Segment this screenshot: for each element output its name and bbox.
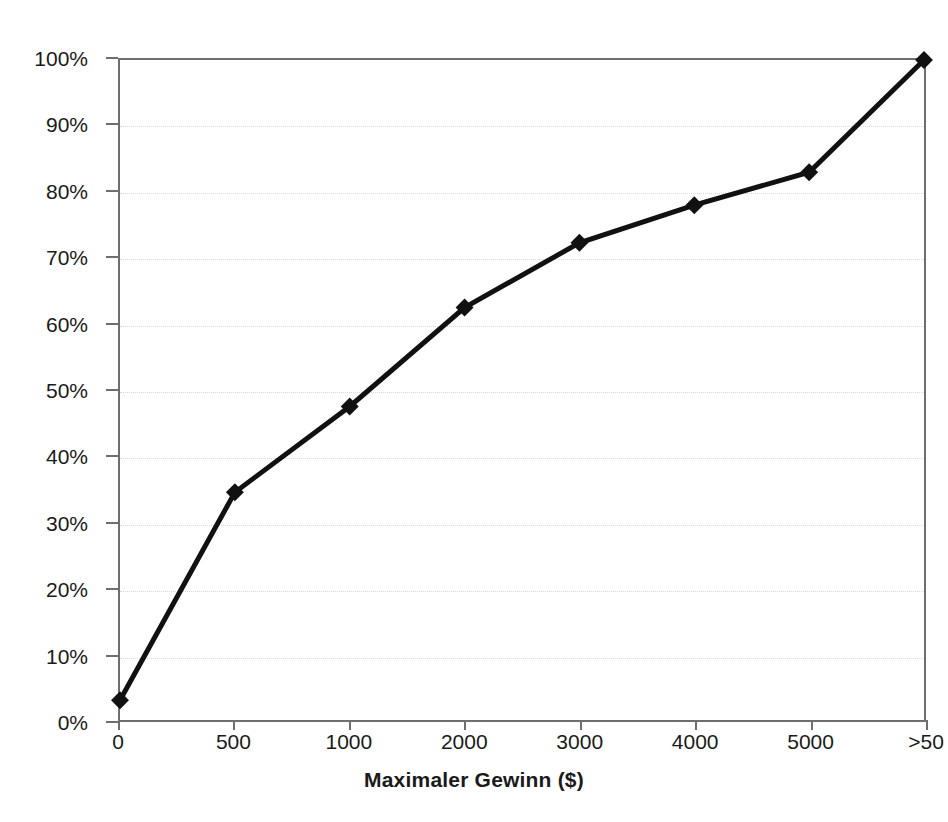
- x-tick-mark: [580, 720, 582, 730]
- y-tick-mark: [106, 588, 118, 590]
- x-tick-label: 1000: [325, 730, 372, 754]
- x-tick-mark: [926, 720, 928, 730]
- x-tick-label: 0: [112, 730, 124, 754]
- x-axis: 050010002000300040005000>50: [118, 730, 926, 770]
- x-tick-mark: [695, 720, 697, 730]
- data-point-marker: [685, 196, 703, 214]
- y-tick-mark: [106, 57, 118, 59]
- chart-container: 0%10%20%30%40%50%60%70%80%90%100% 050010…: [0, 0, 948, 822]
- y-tick-mark: [106, 721, 118, 723]
- y-tick-mark: [106, 256, 118, 258]
- y-tick-mark: [106, 522, 118, 524]
- y-tick-label: 90%: [46, 114, 88, 135]
- x-axis-title: Maximaler Gewinn ($): [0, 768, 948, 792]
- y-tick-mark: [106, 123, 118, 125]
- y-tick-label: 20%: [46, 579, 88, 600]
- x-tick-mark: [118, 720, 120, 730]
- y-tick-label: 50%: [46, 380, 88, 401]
- y-tick-label: 0%: [58, 712, 88, 733]
- x-tick-mark: [811, 720, 813, 730]
- data-series-line: [120, 60, 924, 720]
- x-tick-label: 3000: [556, 730, 603, 754]
- y-tick-label: 10%: [46, 645, 88, 666]
- y-tick-mark: [106, 389, 118, 391]
- y-tick-label: 60%: [46, 313, 88, 334]
- x-tick-mark: [349, 720, 351, 730]
- series-markers: [111, 51, 933, 709]
- y-tick-label: 80%: [46, 180, 88, 201]
- y-tick-label: 40%: [46, 446, 88, 467]
- y-tick-label: 70%: [46, 247, 88, 268]
- y-axis: 0%10%20%30%40%50%60%70%80%90%100%: [0, 58, 104, 722]
- y-tick-mark: [106, 655, 118, 657]
- y-tick-mark: [106, 323, 118, 325]
- plot-area: [118, 58, 926, 722]
- y-tick-mark: [106, 455, 118, 457]
- x-tick-mark: [464, 720, 466, 730]
- x-tick-label: >50: [908, 730, 944, 754]
- y-tick-label: 30%: [46, 512, 88, 533]
- x-tick-mark: [233, 720, 235, 730]
- x-tick-label: 5000: [787, 730, 834, 754]
- x-tick-label: 500: [216, 730, 251, 754]
- y-tick-mark: [106, 190, 118, 192]
- x-tick-label: 4000: [672, 730, 719, 754]
- y-tick-label: 100%: [34, 48, 88, 69]
- series-polyline: [120, 60, 924, 700]
- x-tick-label: 2000: [441, 730, 488, 754]
